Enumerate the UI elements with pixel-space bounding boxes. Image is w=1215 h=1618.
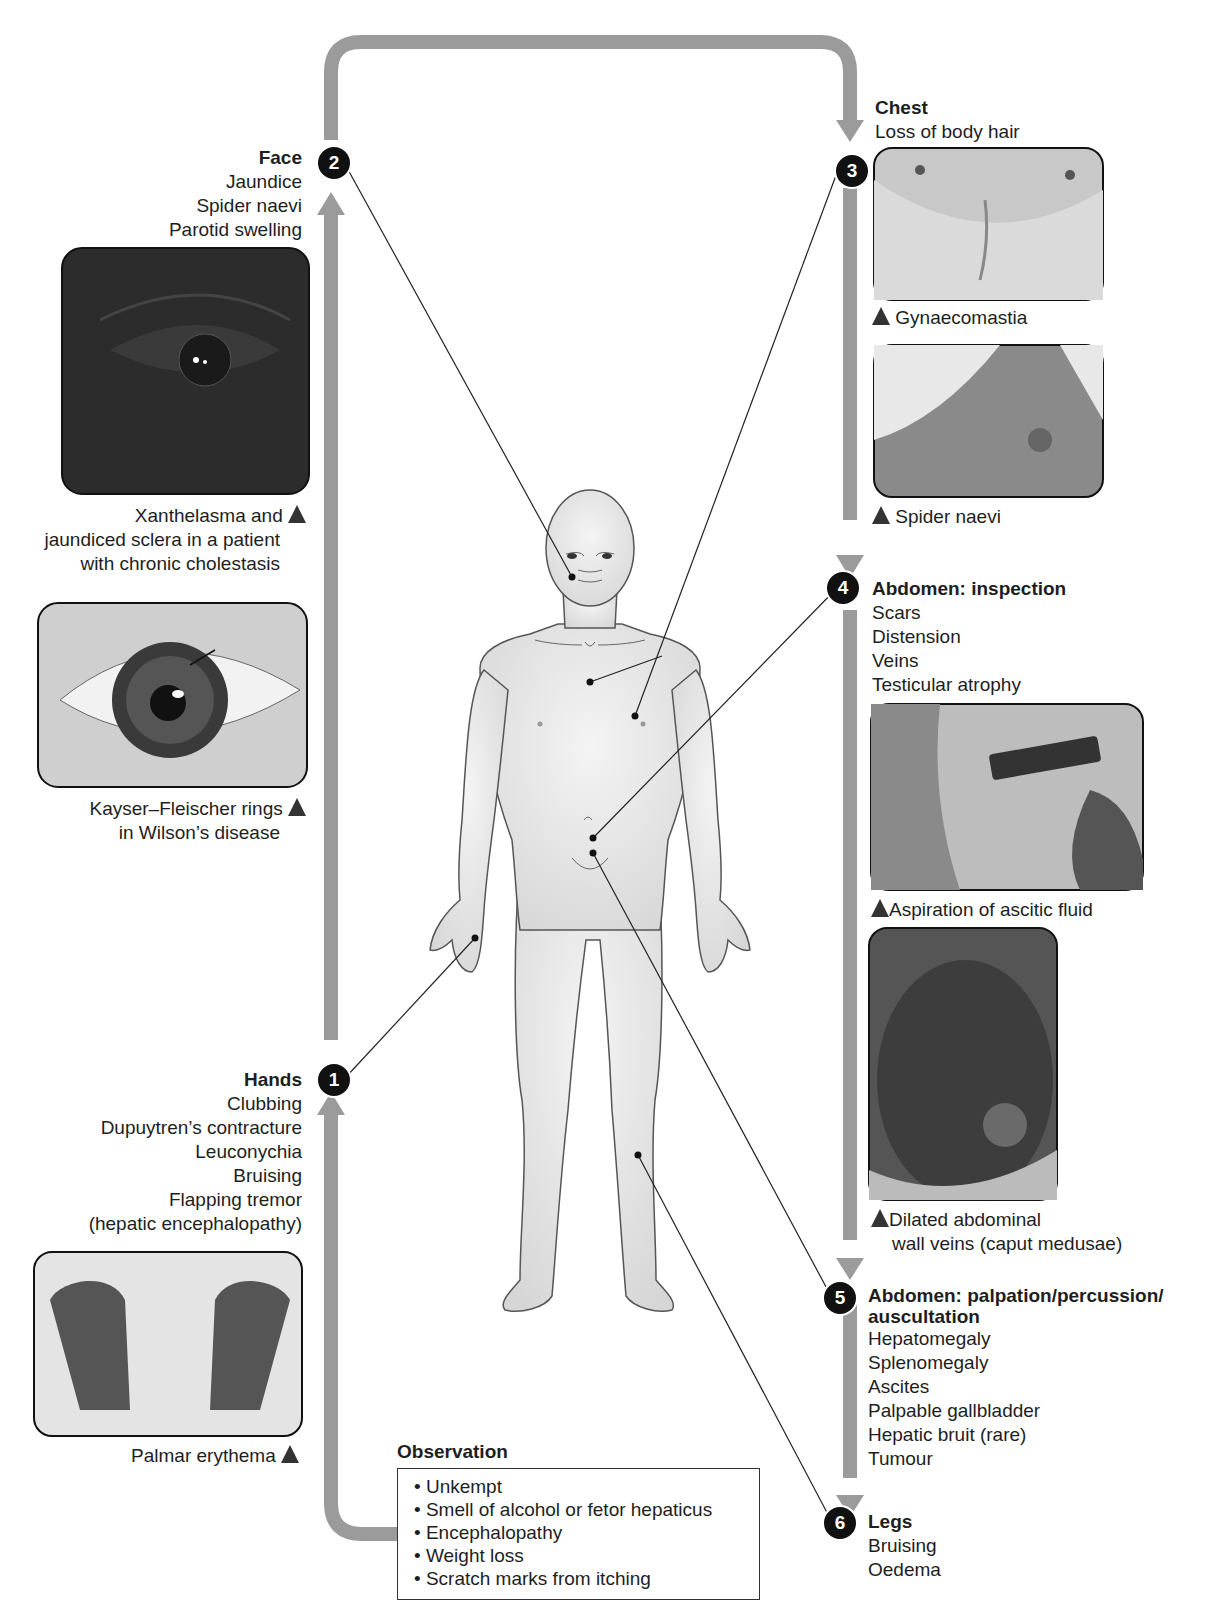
hands-item: Clubbing xyxy=(0,1092,302,1116)
kayser-caption: Kayser–Fleischer rings in Wilson’s disea… xyxy=(0,797,280,845)
abdomen-inspection-item: Testicular atrophy xyxy=(872,673,1066,697)
observation-item: • Scratch marks from itching xyxy=(414,1567,759,1590)
step-badge-5: 5 xyxy=(822,1280,858,1316)
hands-title: Hands xyxy=(0,1068,302,1092)
face-item: Spider naevi xyxy=(0,194,302,218)
triangle-pointer-icon xyxy=(871,1209,889,1227)
abdomen-inspection-item: Distension xyxy=(872,625,1066,649)
xanthelasma-caption: Xanthelasma and jaundiced sclera in a pa… xyxy=(0,504,280,576)
body-figure xyxy=(430,490,750,1311)
abdomen-palpation-item: Tumour xyxy=(868,1447,1164,1471)
triangle-pointer-icon xyxy=(281,1445,299,1463)
step-badge-1: 1 xyxy=(316,1062,352,1098)
legs-section: Legs Bruising Oedema xyxy=(868,1510,941,1582)
photo-palmar-erythema xyxy=(34,1252,302,1436)
face-item: Jaundice xyxy=(0,170,302,194)
photo-caput-medusae xyxy=(869,928,1057,1200)
observation-item: • Encephalopathy xyxy=(414,1521,759,1544)
observation-box: • Unkempt • Smell of alcohol or fetor he… xyxy=(397,1468,760,1600)
face-title: Face xyxy=(0,146,302,170)
chest-section: Chest Loss of body hair xyxy=(875,96,1020,144)
abdomen-palpation-section: Abdomen: palpation/percussion/ auscultat… xyxy=(868,1285,1164,1471)
spider-naevi-caption: Spider naevi xyxy=(872,505,1001,529)
observation-item: • Smell of alcohol or fetor hepaticus xyxy=(414,1498,759,1521)
abdomen-palpation-item: Palpable gallbladder xyxy=(868,1399,1164,1423)
caput-caption: Dilated abdominal wall veins (caput medu… xyxy=(871,1208,1122,1256)
triangle-pointer-icon xyxy=(872,307,890,325)
palmar-caption: Palmar erythema xyxy=(0,1444,273,1468)
triangle-pointer-icon xyxy=(288,505,306,523)
chest-item: Loss of body hair xyxy=(875,120,1020,144)
photo-xanthelasma xyxy=(62,248,309,494)
photo-kayser-fleischer xyxy=(38,603,307,787)
step-badge-3: 3 xyxy=(834,153,870,189)
legs-item: Oedema xyxy=(868,1558,941,1582)
abdomen-inspection-title: Abdomen: inspection xyxy=(872,577,1066,601)
gynaecomastia-caption: Gynaecomastia xyxy=(872,306,1027,330)
triangle-pointer-icon xyxy=(872,506,890,524)
observation-item: • Weight loss xyxy=(414,1544,759,1567)
abdomen-inspection-item: Scars xyxy=(872,601,1066,625)
step-badge-6: 6 xyxy=(822,1505,858,1541)
triangle-pointer-icon xyxy=(871,899,889,917)
photo-gynaecomastia xyxy=(874,148,1103,300)
abdomen-inspection-item: Veins xyxy=(872,649,1066,673)
triangle-pointer-icon xyxy=(288,798,306,816)
ascitic-caption: Aspiration of ascitic fluid xyxy=(871,898,1093,922)
abdomen-palpation-item: Hepatic bruit (rare) xyxy=(868,1423,1164,1447)
hands-item: Bruising xyxy=(0,1164,302,1188)
hands-item: Flapping tremor xyxy=(0,1188,302,1212)
hands-item: Dupuytren’s contracture xyxy=(0,1116,302,1140)
face-item: Parotid swelling xyxy=(0,218,302,242)
step-badge-2: 2 xyxy=(316,145,352,181)
photo-ascitic-aspiration xyxy=(871,704,1143,890)
abdomen-palpation-item: Ascites xyxy=(868,1375,1164,1399)
abdomen-inspection-section: Abdomen: inspection Scars Distension Vei… xyxy=(872,577,1066,697)
chest-title: Chest xyxy=(875,96,1020,120)
photo-spider-naevi xyxy=(874,345,1103,497)
hands-item: Leuconychia xyxy=(0,1140,302,1164)
legs-item: Bruising xyxy=(868,1534,941,1558)
legs-title: Legs xyxy=(868,1510,941,1534)
abdomen-palpation-item: Hepatomegaly xyxy=(868,1327,1164,1351)
step-badge-4: 4 xyxy=(825,570,861,606)
abdomen-palpation-title: Abdomen: palpation/percussion/ xyxy=(868,1285,1164,1306)
face-section: Face Jaundice Spider naevi Parotid swell… xyxy=(0,146,302,242)
abdomen-palpation-item: Splenomegaly xyxy=(868,1351,1164,1375)
observation-item: • Unkempt xyxy=(414,1475,759,1498)
abdomen-palpation-title-2: auscultation xyxy=(868,1306,1164,1327)
hands-section: Hands Clubbing Dupuytren’s contracture L… xyxy=(0,1068,302,1236)
observation-title: Observation xyxy=(397,1440,508,1464)
hands-item: (hepatic encephalopathy) xyxy=(0,1212,302,1236)
